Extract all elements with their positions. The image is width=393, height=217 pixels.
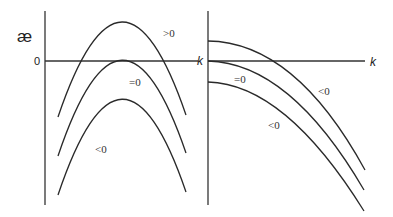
left-curve-negative [58, 99, 186, 195]
right-label-equals-zero: =0 [234, 73, 246, 85]
left-label-greater-than-zero: >0 [163, 27, 175, 39]
right-curve-bottom [208, 82, 364, 211]
origin-zero-label: 0 [34, 55, 40, 67]
left-label-less-than-zero: <0 [95, 143, 107, 155]
right-panel: k k =0 <0 <0 [197, 11, 377, 211]
left-curve-zero [58, 60, 186, 156]
right-curve-middle [208, 61, 364, 190]
right-label-less-than-zero-upper: <0 [318, 85, 330, 97]
left-k-axis-label: k [197, 54, 204, 68]
two-panel-curve-diagram: æ 0 >0 =0 <0 k k =0 <0 <0 [0, 0, 393, 217]
left-panel: æ 0 >0 =0 <0 [17, 11, 198, 205]
right-k-axis-label: k [370, 55, 377, 69]
y-axis-symbol-ae: æ [17, 27, 32, 46]
left-label-equals-zero: =0 [129, 76, 141, 88]
right-label-less-than-zero-lower: <0 [268, 119, 280, 131]
